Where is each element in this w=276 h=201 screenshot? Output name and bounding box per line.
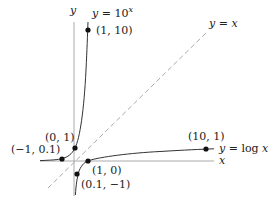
y-axis-label: y <box>69 4 77 17</box>
label-0.1-neg1: (0.1, −1) <box>81 178 130 191</box>
identity-line-label: y = x <box>208 17 238 30</box>
exp-point-neg1-0.1 <box>59 156 64 161</box>
identity-line <box>48 33 206 188</box>
exp-point-0-1 <box>72 145 77 150</box>
log-point-1-0 <box>85 158 90 163</box>
label-1-10: (1, 10) <box>96 24 133 37</box>
label-1-0: (1, 0) <box>92 164 122 177</box>
exponential-curve-label: y = 10x <box>91 5 133 20</box>
log-point-0.1-neg1 <box>74 171 79 176</box>
log-point-10-1 <box>203 146 208 151</box>
label-10-1: (10, 1) <box>188 130 225 143</box>
logarithm-curve-label: y = log x <box>218 142 269 155</box>
exp-point-1-10 <box>85 27 90 32</box>
x-axis-label: x <box>219 154 226 167</box>
function-inverse-diagram: y x y = 10x y = log x y = x (1, 10) (0, … <box>0 0 276 201</box>
label-neg1-0.1: (−1, 0.1) <box>11 143 60 156</box>
